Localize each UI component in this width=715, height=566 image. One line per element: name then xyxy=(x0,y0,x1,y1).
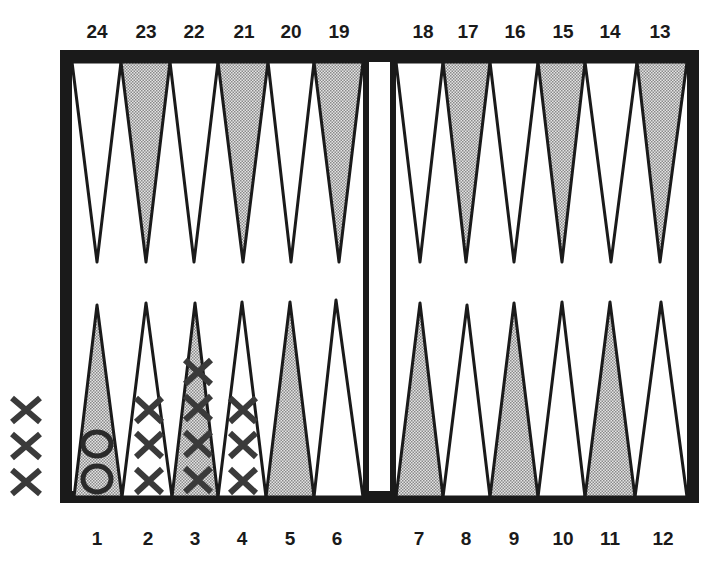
point-label-1: 1 xyxy=(92,529,103,548)
point-label-6: 6 xyxy=(332,529,343,548)
point-label-8: 8 xyxy=(461,529,472,548)
point-label-5: 5 xyxy=(285,529,296,548)
board-graphic xyxy=(0,0,715,566)
point-label-9: 9 xyxy=(509,529,520,548)
point-label-2: 2 xyxy=(143,529,154,548)
point-label-7: 7 xyxy=(414,529,425,548)
point-label-4: 4 xyxy=(237,529,248,548)
point-label-3: 3 xyxy=(190,529,201,548)
point-label-10: 10 xyxy=(552,529,573,548)
point-label-11: 11 xyxy=(600,529,620,548)
point-label-12: 12 xyxy=(652,529,673,548)
